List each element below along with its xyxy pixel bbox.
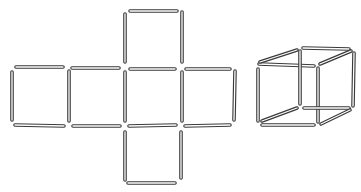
cross-net-figure xyxy=(12,11,235,183)
matchstick xyxy=(234,71,235,120)
matchstick xyxy=(129,125,176,126)
matchstick xyxy=(15,125,64,126)
matchstick xyxy=(321,110,350,124)
matchstick xyxy=(303,48,349,49)
matchstick xyxy=(353,53,354,106)
matchstick xyxy=(320,51,351,64)
matchstick xyxy=(259,64,314,66)
matchstick xyxy=(262,108,297,121)
cube-figure xyxy=(258,48,354,125)
matchstick xyxy=(185,125,230,126)
matchstick xyxy=(260,50,297,62)
diagram-canvas xyxy=(0,0,361,192)
matchstick-diagram xyxy=(0,0,361,192)
